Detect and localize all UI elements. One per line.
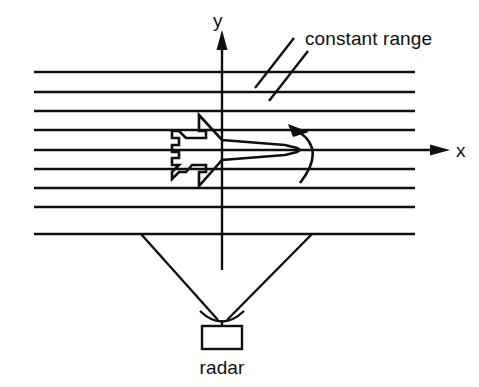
beam-line-left xyxy=(141,234,218,320)
radar-dish-arc xyxy=(200,311,244,322)
radar-body xyxy=(202,326,242,349)
radar-station xyxy=(200,311,244,349)
beam-line-right xyxy=(227,234,312,320)
roll-arc xyxy=(299,132,313,183)
x-axis-label: x xyxy=(456,140,466,161)
x-axis-arrowhead xyxy=(430,145,450,156)
radar-label: radar xyxy=(200,357,245,378)
radar-beam-cone xyxy=(141,234,312,320)
y-axis-label: y xyxy=(213,10,223,31)
radar-range-diagram: constant range radar y x xyxy=(0,0,479,387)
constant-range-lines xyxy=(34,72,415,234)
x-axis xyxy=(34,145,450,156)
leader-line-1 xyxy=(255,38,294,88)
y-axis-arrowhead xyxy=(217,30,228,50)
constant-range-label: constant range xyxy=(305,28,432,49)
leader-line-2 xyxy=(269,51,308,101)
diagram-canvas: constant range radar y x xyxy=(0,0,479,387)
